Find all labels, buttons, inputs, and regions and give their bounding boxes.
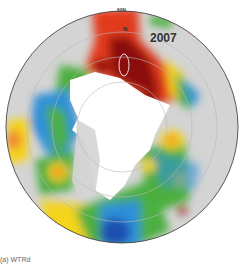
north-label: N [123, 26, 127, 32]
caption: (a) WTRd [0, 256, 30, 263]
latitude-label: 60N [117, 7, 126, 13]
arctic-polar-map [0, 0, 241, 269]
year-label: 2007 [150, 31, 177, 45]
